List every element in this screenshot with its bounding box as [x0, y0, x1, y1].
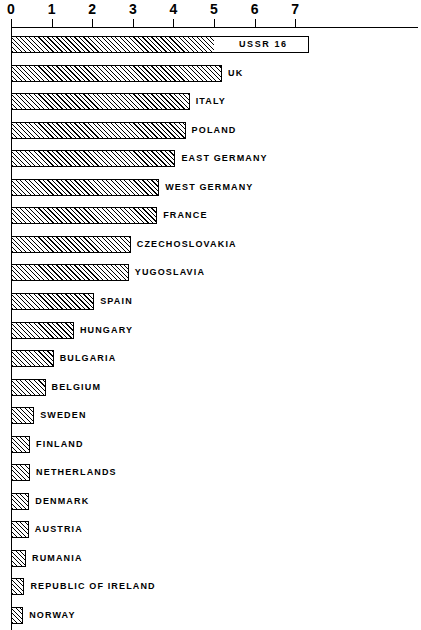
bar-label: USSR 16 — [239, 39, 288, 50]
x-axis-line — [11, 27, 418, 28]
bar — [11, 550, 26, 567]
x-axis-tick-label: 3 — [121, 2, 145, 17]
bar-label: SWEDEN — [40, 410, 86, 421]
bar — [11, 464, 30, 481]
bar-label: NORWAY — [29, 610, 75, 621]
x-axis-tick-label: 5 — [202, 2, 226, 17]
x-axis-tick-label: 4 — [161, 2, 185, 17]
bar-label: BULGARIA — [60, 353, 117, 364]
bar — [11, 379, 46, 396]
x-axis-tick-mark — [11, 19, 12, 27]
bar — [11, 578, 24, 595]
bar — [11, 607, 23, 624]
bar — [11, 207, 157, 224]
bar-label: BELGIUM — [52, 382, 102, 393]
bar-label: HUNGARY — [80, 325, 133, 336]
bar-label: FRANCE — [163, 210, 207, 221]
bar-label: DENMARK — [35, 496, 89, 507]
bar — [11, 150, 175, 167]
bar-broken-fill — [12, 37, 214, 52]
bar — [11, 493, 29, 510]
bar-label: NETHERLANDS — [36, 467, 117, 478]
x-axis-tick-label: 2 — [80, 2, 104, 17]
bar-label: RUMANIA — [32, 553, 83, 564]
bar-label: REPUBLIC OF IRELAND — [30, 581, 155, 592]
bar-label: SPAIN — [100, 296, 133, 307]
bar — [11, 436, 30, 453]
bar — [11, 65, 222, 82]
bar-label: WEST GERMANY — [165, 182, 253, 193]
bar-label: YUGOSLAVIA — [135, 267, 205, 278]
x-axis-tick-label: 1 — [40, 2, 64, 17]
bar — [11, 322, 74, 339]
bar-label: EAST GERMANY — [181, 153, 267, 164]
x-axis-tick-label: 6 — [243, 2, 267, 17]
x-axis-tick-mark — [173, 19, 174, 27]
bar-label: AUSTRIA — [35, 524, 83, 535]
bar-label: FINLAND — [36, 439, 84, 450]
bar — [11, 236, 131, 253]
x-axis-tick-mark — [295, 19, 296, 27]
bar — [11, 293, 94, 310]
bar-label: ITALY — [196, 96, 226, 107]
bar — [11, 407, 34, 424]
bar — [11, 93, 190, 110]
x-axis-tick-label: 0 — [0, 2, 23, 17]
x-axis-tick-label: 7 — [283, 2, 307, 17]
x-axis-tick-mark — [133, 19, 134, 27]
x-axis-tick-mark — [52, 19, 53, 27]
bar-label: POLAND — [192, 125, 237, 136]
x-axis-tick-mark — [92, 19, 93, 27]
bar — [11, 122, 186, 139]
bar-label: UK — [228, 68, 243, 79]
bar-label: CZECHOSLOVAKIA — [137, 239, 237, 250]
bar — [11, 264, 129, 281]
x-axis-tick-mark — [214, 19, 215, 27]
bar — [11, 521, 29, 538]
bar — [11, 179, 159, 196]
horizontal-bar-chart: 01234567 USSR 16UKITALYPOLANDEAST GERMAN… — [0, 0, 421, 630]
bar — [11, 350, 54, 367]
x-axis-tick-mark — [255, 19, 256, 27]
